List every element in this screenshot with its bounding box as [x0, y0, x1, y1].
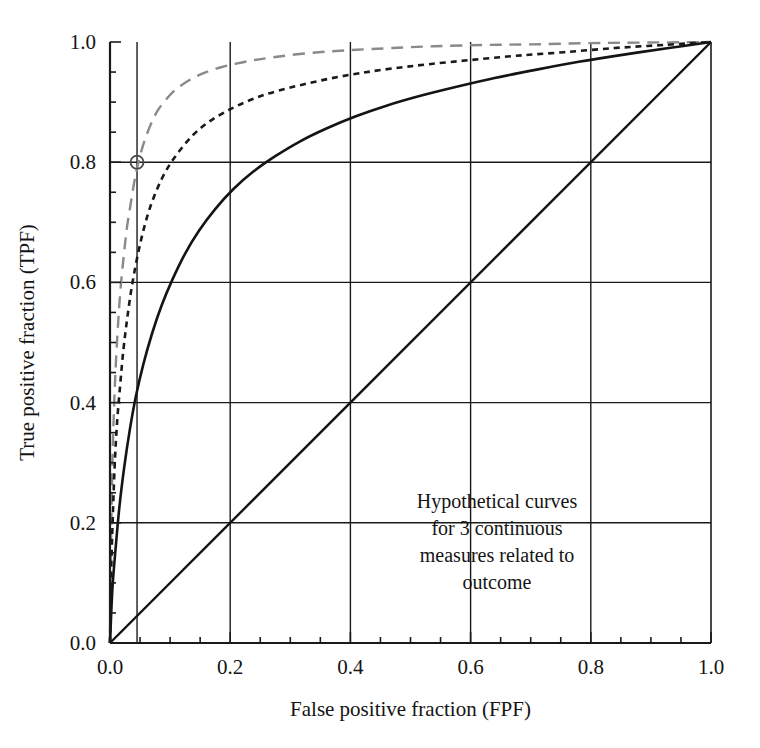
y-tick-label: 0.6 — [70, 270, 96, 294]
annotation-line: outcome — [463, 571, 532, 593]
annotation-line: for 3 continuous — [431, 517, 562, 539]
roc-chart: 0.00.20.40.60.81.00.00.20.40.60.81.0 Fal… — [0, 0, 760, 748]
x-axis-title: False positive fraction (FPF) — [290, 697, 531, 721]
roc-figure: 0.00.20.40.60.81.00.00.20.40.60.81.0 Fal… — [0, 0, 760, 748]
x-tick-label: 1.0 — [698, 655, 724, 679]
annotation-line: measures related to — [420, 544, 574, 566]
x-tick-label: 0.4 — [337, 655, 364, 679]
y-tick-label: 1.0 — [70, 30, 96, 54]
x-tick-label: 0.6 — [457, 655, 483, 679]
y-tick-label: 0.4 — [70, 391, 97, 415]
x-tick-label: 0.0 — [97, 655, 123, 679]
y-tick-label: 0.0 — [70, 631, 96, 655]
y-tick-label: 0.2 — [70, 511, 96, 535]
y-axis-title: True positive fraction (TPF) — [15, 224, 39, 461]
x-tick-label: 0.8 — [578, 655, 604, 679]
annotation-line: Hypothetical curves — [417, 490, 578, 513]
y-tick-label: 0.8 — [70, 150, 96, 174]
x-tick-label: 0.2 — [217, 655, 243, 679]
